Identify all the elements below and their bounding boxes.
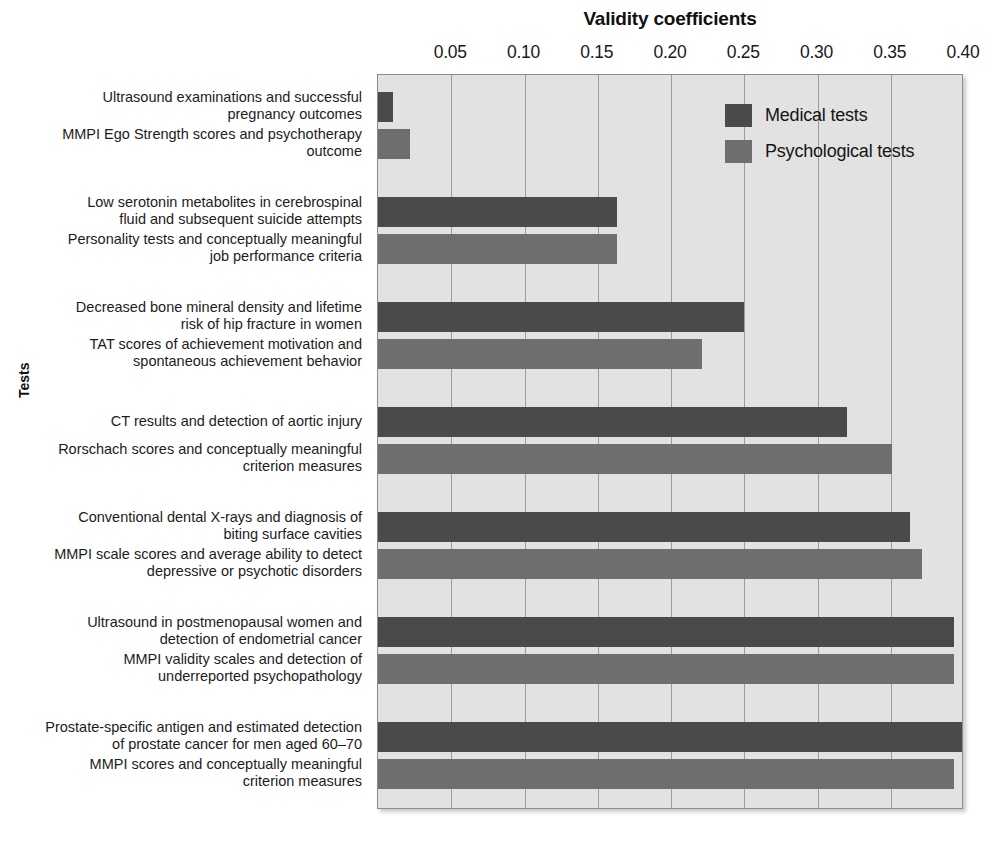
category-label-psychological-5: MMPI validity scales and detection of un… [22, 651, 362, 685]
bar-medical-0 [378, 92, 393, 122]
legend-swatch-psychological-icon [725, 140, 752, 163]
category-label-medical-2: Decreased bone mineral density and lifet… [22, 299, 362, 333]
chart-title: Validity coefficients [377, 8, 963, 30]
x-tick-label-1: 0.10 [507, 42, 540, 63]
x-tick-label-7: 0.40 [947, 42, 980, 63]
x-tick-label-5: 0.30 [800, 42, 833, 63]
bar-medical-3 [378, 407, 847, 437]
bar-medical-2 [378, 302, 744, 332]
bar-psychological-6 [378, 759, 954, 789]
x-tick-label-3: 0.20 [654, 42, 687, 63]
category-label-medical-4: Conventional dental X-rays and diagnosis… [22, 509, 362, 543]
category-label-medical-6: Prostate-specific antigen and estimated … [22, 719, 362, 753]
bar-psychological-0 [378, 129, 410, 159]
category-label-psychological-4: MMPI scale scores and average ability to… [22, 546, 362, 580]
category-label-psychological-6: MMPI scores and conceptually meaningful … [22, 756, 362, 790]
validity-coefficients-chart: Validity coefficients 0.050.100.150.200.… [0, 0, 992, 846]
plot-area: Medical tests Psychological tests [377, 74, 963, 809]
category-label-psychological-0: MMPI Ego Strength scores and psychothera… [22, 126, 362, 160]
legend-swatch-medical-icon [725, 104, 752, 127]
category-label-medical-5: Ultrasound in postmenopausal women and d… [22, 614, 362, 648]
x-tick-label-6: 0.35 [873, 42, 906, 63]
x-axis-tick-labels: 0.050.100.150.200.250.300.350.40 [0, 42, 992, 68]
bar-medical-4 [378, 512, 910, 542]
bar-psychological-2 [378, 339, 702, 369]
chart-legend: Medical tests Psychological tests [725, 97, 955, 169]
bar-psychological-5 [378, 654, 954, 684]
bar-psychological-4 [378, 549, 922, 579]
legend-label-medical: Medical tests [765, 105, 867, 126]
category-label-medical-0: Ultrasound examinations and successful p… [22, 89, 362, 123]
category-label-psychological-2: TAT scores of achievement motivation and… [22, 336, 362, 370]
category-labels: Ultrasound examinations and successful p… [20, 74, 370, 809]
legend-item-psychological: Psychological tests [725, 133, 955, 169]
category-label-medical-1: Low serotonin metabolites in cerebrospin… [22, 194, 362, 228]
category-label-medical-3: CT results and detection of aortic injur… [22, 413, 362, 430]
bar-medical-6 [378, 722, 963, 752]
bar-psychological-3 [378, 444, 892, 474]
bar-medical-5 [378, 617, 954, 647]
x-tick-label-0: 0.05 [434, 42, 467, 63]
x-tick-label-2: 0.15 [580, 42, 613, 63]
bar-psychological-1 [378, 234, 617, 264]
legend-label-psychological: Psychological tests [765, 141, 914, 162]
bars [378, 75, 962, 808]
bar-medical-1 [378, 197, 617, 227]
category-label-psychological-1: Personality tests and conceptually meani… [22, 231, 362, 265]
x-tick-label-4: 0.25 [727, 42, 760, 63]
category-label-psychological-3: Rorschach scores and conceptually meanin… [22, 441, 362, 475]
legend-item-medical: Medical tests [725, 97, 955, 133]
